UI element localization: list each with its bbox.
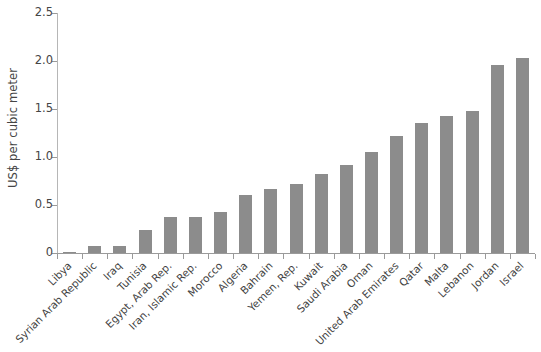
x-axis-tick: [359, 254, 360, 259]
x-axis-tick-label: Israel: [498, 260, 526, 288]
y-axis-tick-label: 1.5: [35, 103, 53, 115]
x-axis-tick-label: Iran, Islamic Rep.: [127, 260, 199, 332]
x-axis-tick: [233, 254, 234, 259]
x-axis-tick: [283, 254, 284, 259]
x-axis-tick-label: Libya: [46, 260, 73, 287]
x-axis-spine: [57, 253, 535, 254]
y-axis-spine: [57, 13, 58, 253]
x-axis-tick-label: Iraq: [101, 260, 123, 282]
x-axis-tick-label: United Arab Emirates: [313, 260, 400, 347]
bar: [491, 65, 504, 253]
x-axis-tick-label: Oman: [345, 260, 375, 290]
x-axis-tick-label: Qatar: [397, 260, 425, 288]
x-axis-tick: [485, 254, 486, 259]
x-axis-tick-label: Kuwait: [292, 260, 324, 292]
x-axis-tick-label: Syrian Arab Republic: [13, 260, 98, 345]
bar: [88, 246, 101, 253]
x-axis-tick-label: Egypt, Arab Rep.: [104, 260, 174, 330]
bar: [189, 217, 202, 253]
x-axis-tick: [57, 254, 58, 259]
x-axis-tick: [82, 254, 83, 259]
bar: [63, 252, 76, 253]
bar: [139, 230, 152, 253]
bar: [516, 58, 529, 253]
bar: [239, 195, 252, 253]
plot-area: 00.51.01.52.02.5: [57, 13, 535, 253]
bar: [466, 111, 479, 253]
x-axis-tick-label: Yemen, Rep.: [246, 260, 299, 313]
bar: [440, 116, 453, 253]
bar: [415, 123, 428, 253]
y-axis-title-text: US$ per cubic meter: [6, 68, 20, 188]
x-axis-tick: [183, 254, 184, 259]
x-axis-tick: [535, 254, 536, 259]
y-axis-tick-label: 2.5: [35, 7, 53, 19]
bar: [164, 217, 177, 253]
y-axis-title: US$ per cubic meter: [2, 0, 24, 256]
y-axis-tick-label: 1.0: [35, 151, 53, 163]
bar: [365, 152, 378, 253]
bar: [113, 246, 126, 253]
x-axis-tick: [158, 254, 159, 259]
x-axis-tick-label: Lebanon: [436, 260, 475, 299]
x-axis-tick: [107, 254, 108, 259]
x-axis-tick-label: Tunisia: [116, 260, 149, 293]
y-axis-tick-label: 2.0: [35, 55, 53, 67]
bar: [390, 136, 403, 253]
bar: [214, 212, 227, 253]
x-axis-tick-label: Jordan: [470, 260, 501, 291]
bar: [315, 174, 328, 253]
x-axis-tick-label: Saudi Arabia: [295, 260, 350, 315]
x-axis-tick: [334, 254, 335, 259]
x-axis-tick-label: Bahrain: [238, 260, 274, 296]
bar: [340, 165, 353, 253]
x-axis-tick-label: Morocco: [185, 260, 224, 299]
x-axis-tick: [510, 254, 511, 259]
y-axis-tick-label: 0.5: [35, 199, 53, 211]
x-axis-tick: [384, 254, 385, 259]
x-axis-tick: [409, 254, 410, 259]
x-axis-tick: [208, 254, 209, 259]
x-axis-tick: [132, 254, 133, 259]
x-axis-tick: [309, 254, 310, 259]
x-axis-tick-label: Algeria: [216, 260, 250, 294]
x-axis-tick: [434, 254, 435, 259]
x-axis-tick: [258, 254, 259, 259]
bar: [264, 189, 277, 253]
x-axis-tick: [460, 254, 461, 259]
y-axis-tick-label: 0: [46, 247, 53, 259]
bar-chart-figure: US$ per cubic meter 00.51.01.52.02.5 Lib…: [0, 0, 541, 352]
bar: [290, 184, 303, 253]
x-axis-tick-label: Malta: [422, 260, 450, 288]
